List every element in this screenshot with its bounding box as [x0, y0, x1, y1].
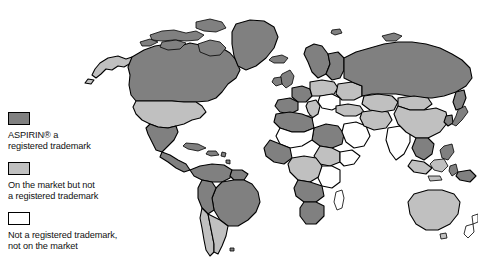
legend-entry-registered: ASPIRIN® a registered trademark: [8, 112, 178, 153]
region-svalbard: [331, 29, 342, 35]
region-russia: [344, 42, 472, 98]
region-finland-baltic: [326, 52, 344, 80]
legend-label-registered: ASPIRIN® a registered trademark: [8, 130, 178, 153]
region-turkey-caucasus: [336, 104, 364, 116]
region-united-kingdom: [280, 70, 294, 88]
region-horn-of-africa: [340, 150, 360, 166]
legend-label-not-on-market: Not a registered trademark, not on the m…: [8, 230, 178, 253]
region-germany-poland: [310, 80, 338, 96]
region-ireland: [272, 77, 282, 86]
region-ellesmere: [196, 19, 226, 32]
region-novaya-zemlya: [382, 33, 402, 41]
region-arctic-islands-a: [150, 30, 204, 41]
region-cuba: [183, 143, 206, 151]
region-new-zealand-south: [464, 224, 474, 238]
region-tasmania: [440, 233, 447, 239]
region-falklands: [230, 248, 234, 251]
region-hispaniola: [206, 151, 219, 156]
region-new-zealand-north: [472, 214, 478, 224]
legend-entry-not-on-market: Not a registered trademark, not on the m…: [8, 212, 178, 253]
legend-swatch-registered: [8, 112, 30, 125]
legend-swatch-on-market: [8, 162, 30, 175]
map-legend: ASPIRIN® a registered trademark On the m…: [8, 112, 178, 259]
region-colombia-venezuela: [190, 164, 232, 182]
legend-entry-on-market: On the market but not a registered trade…: [8, 162, 178, 203]
region-lesser-antilles-a: [221, 152, 226, 157]
region-greenland: [232, 20, 278, 70]
region-southern-africa: [300, 202, 324, 224]
world-map-figure: ASPIRIN® a registered trademark On the m…: [0, 0, 478, 270]
region-central-asia: [362, 94, 398, 112]
region-philippines: [440, 144, 454, 160]
region-indochina: [412, 138, 434, 160]
region-madagascar: [334, 190, 344, 210]
region-france-benelux: [292, 86, 312, 102]
region-borneo: [430, 159, 448, 172]
region-papua-new-guinea: [456, 170, 476, 182]
region-libya-egypt: [312, 124, 344, 148]
region-aleutians: [85, 79, 94, 84]
region-east-africa: [318, 166, 340, 188]
region-australia: [408, 190, 460, 230]
region-angola-zambia: [294, 180, 324, 202]
region-indonesia-sumatra: [408, 160, 432, 174]
region-guianas: [230, 170, 248, 180]
region-iceland: [269, 55, 288, 63]
region-lesser-antilles-b: [226, 160, 230, 164]
region-java: [428, 176, 442, 181]
legend-swatch-not-on-market: [8, 212, 30, 225]
region-central-africa: [288, 156, 322, 182]
region-iberia: [275, 98, 298, 114]
region-japan: [452, 106, 468, 126]
region-alaska: [92, 56, 132, 78]
legend-label-on-market: On the market but not a registered trade…: [8, 180, 178, 203]
